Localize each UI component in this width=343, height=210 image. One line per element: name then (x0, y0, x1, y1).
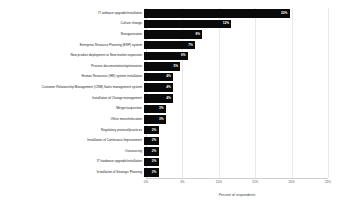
bar-value-label: 20% (281, 12, 290, 15)
bar-value-label: 3% (159, 118, 166, 121)
bar-value-label: 3% (159, 107, 166, 110)
bar-row: Installation of Continuous Improvement2% (0, 136, 343, 147)
bar-value-label: 2% (152, 160, 159, 163)
x-tick-label: 10% (216, 180, 222, 184)
bar-row: Regulatory protocol/practices2% (0, 125, 343, 136)
x-tick-label: 0% (144, 180, 148, 184)
bar[interactable]: 12% (144, 20, 231, 28)
bar[interactable]: 4% (144, 73, 173, 81)
bar-row: IT software upgrade/installation20% (0, 8, 343, 19)
bar-row: Installation of Strategic Planning2% (0, 167, 343, 178)
bar[interactable]: 2% (144, 168, 159, 176)
bar-value-label: 8% (195, 33, 202, 36)
bar-track: 2% (144, 146, 326, 157)
category-label: Merger/acquisition (0, 107, 144, 110)
bar-row: IT hardware upgrade/installation2% (0, 157, 343, 168)
bar-track: 4% (144, 93, 326, 104)
category-label: IT hardware upgrade/installation (0, 160, 144, 163)
bar-chart: IT software upgrade/installation20%Cultu… (0, 0, 343, 210)
bar-track: 2% (144, 167, 326, 178)
bar-row: Installation of Change management4% (0, 93, 343, 104)
x-tick-label: 25% (325, 180, 331, 184)
bar-track: 2% (144, 125, 326, 136)
bar[interactable]: 7% (144, 41, 195, 49)
bar-value-label: 2% (152, 139, 159, 142)
category-label: Culture change (0, 22, 144, 25)
x-tick-label: 15% (252, 180, 258, 184)
bar-row: Enterprise Resource Planning (ERP) syste… (0, 40, 343, 51)
bar-track: 3% (144, 104, 326, 115)
bar[interactable]: 5% (144, 62, 180, 70)
bar[interactable]: 4% (144, 94, 173, 102)
bar-row: New product deployment or New market exp… (0, 51, 343, 62)
bar-value-label: 5% (174, 65, 181, 68)
category-label: Installation of Continuous Improvement (0, 139, 144, 142)
bar-track: 5% (144, 61, 326, 72)
category-label: Enterprise Resource Planning (ERP) syste… (0, 44, 144, 47)
bar-value-label: 2% (152, 150, 159, 153)
bar-track: 8% (144, 29, 326, 40)
bar-track: 4% (144, 72, 326, 83)
category-label: Process documentation/optimization (0, 65, 144, 68)
bar-row: Merger/acquisition3% (0, 104, 343, 115)
x-axis-line (146, 178, 328, 179)
category-label: Regulatory protocol/practices (0, 129, 144, 132)
bar[interactable]: 2% (144, 137, 159, 145)
bar-track: 2% (144, 157, 326, 168)
bar-row: Reorganization8% (0, 29, 343, 40)
bar[interactable]: 2% (144, 147, 159, 155)
bar[interactable]: 3% (144, 105, 166, 113)
bar[interactable]: 8% (144, 30, 202, 38)
category-label: IT software upgrade/installation (0, 12, 144, 15)
bar-row: Office move/relocation3% (0, 114, 343, 125)
bar-value-label: 2% (152, 129, 159, 132)
x-axis-title: Percent of respondents (146, 193, 328, 197)
bar[interactable]: 4% (144, 83, 173, 91)
bar-track: 12% (144, 19, 326, 30)
bar-value-label: 4% (166, 97, 173, 100)
x-axis-ticks: 0%5%10%15%20%25% (146, 180, 328, 188)
bar-track: 4% (144, 82, 326, 93)
bar-track: 20% (144, 8, 326, 19)
category-label: Reorganization (0, 33, 144, 36)
bar[interactable]: 6% (144, 52, 188, 60)
category-label: Office move/relocation (0, 118, 144, 121)
bar-value-label: 7% (188, 44, 195, 47)
category-label: Installation of Strategic Planning (0, 171, 144, 174)
bar[interactable]: 2% (144, 158, 159, 166)
bar-row: Human Resources (HR) system installation… (0, 72, 343, 83)
bar-value-label: 6% (181, 54, 188, 57)
category-label: Outsourcing (0, 150, 144, 153)
bar-track: 6% (144, 51, 326, 62)
bar-track: 3% (144, 114, 326, 125)
bar-value-label: 4% (166, 75, 173, 78)
category-label: Customer Relationship Management (CRM) S… (0, 86, 144, 89)
bar-value-label: 2% (152, 171, 159, 174)
bar-row: Process documentation/optimization5% (0, 61, 343, 72)
bar-track: 7% (144, 40, 326, 51)
bar[interactable]: 20% (144, 9, 290, 17)
bar[interactable]: 3% (144, 115, 166, 123)
bar-value-label: 4% (166, 86, 173, 89)
bar-row: Customer Relationship Management (CRM) S… (0, 82, 343, 93)
x-tick-label: 5% (180, 180, 184, 184)
bar-value-label: 12% (223, 22, 232, 25)
bar-row: Culture change12% (0, 19, 343, 30)
x-tick-label: 20% (288, 180, 294, 184)
bar-row: Outsourcing2% (0, 146, 343, 157)
bar[interactable]: 2% (144, 126, 159, 134)
bar-track: 2% (144, 136, 326, 147)
category-label: Human Resources (HR) system installation (0, 75, 144, 78)
category-label: New product deployment or New market exp… (0, 54, 144, 57)
bar-rows: IT software upgrade/installation20%Cultu… (0, 8, 343, 178)
category-label: Installation of Change management (0, 97, 144, 100)
